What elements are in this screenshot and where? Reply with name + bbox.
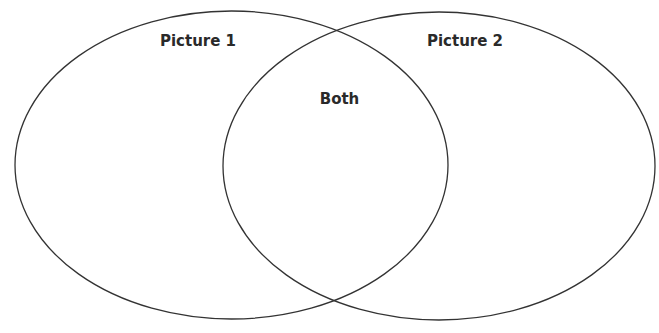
picture-1-circle [15, 11, 448, 319]
both-label: Both [320, 90, 360, 108]
picture-2-label: Picture 2 [427, 32, 503, 50]
picture-1-label: Picture 1 [160, 32, 236, 50]
picture-2-circle [223, 12, 655, 320]
venn-diagram: Picture 1 Picture 2 Both [0, 0, 659, 333]
